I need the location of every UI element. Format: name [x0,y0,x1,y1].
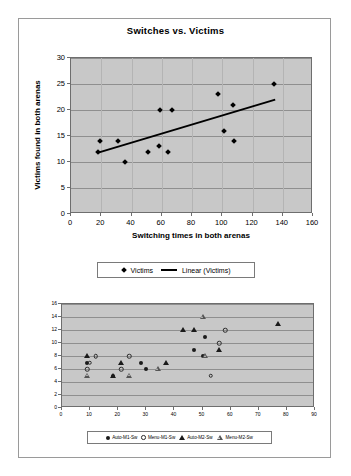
chart-switches-vs-victims: Switches vs. Victims Switching times in … [19,19,332,287]
legend-label: Auto-M1-Sw [112,435,137,440]
x-axis-tickmark [314,407,315,410]
y-axis-tickmark [67,187,70,188]
x-axis-tick-label: 40 [117,218,145,227]
y-axis-tick-label: 12 [48,326,57,332]
x-axis-tickmark [131,213,132,216]
legend-label: Victims [131,267,153,274]
legend-item-menu-m1: Menu-M1-Sw [141,435,175,440]
y-axis-tickmark [58,342,61,343]
gridline [62,304,313,305]
x-axis-tickmark [161,213,162,216]
x-axis-tick-label: 140 [268,218,296,227]
data-point [202,353,208,358]
y-axis-tick-label: 0 [48,404,57,410]
legend-item-auto-m1: Auto-M1-Sw [106,435,137,440]
x-axis-tick-label: 20 [103,411,131,417]
chart-switch-counts: Auto-M1-Sw Menu-M1-Sw Auto-M2-Sw Menu-M2… [19,291,332,457]
x-axis-tickmark [100,213,101,216]
trendline [71,58,313,214]
chart-legend: Victims Linear (Victims) [97,262,255,278]
data-point [118,360,124,365]
y-axis-tickmark [67,109,70,110]
x-axis-title: Switching times in both arenas [70,231,312,240]
x-axis-tickmark [61,407,62,410]
x-axis-tickmark [312,213,313,216]
x-axis-tick-label: 120 [238,218,266,227]
y-axis-title: Victims found in both arenas [33,57,42,213]
data-point [275,321,281,326]
x-axis-tickmark [221,213,222,216]
data-point [163,360,169,365]
data-point [84,353,90,358]
chart-title: Switches vs. Victims [19,25,332,36]
filled-triangle-marker-icon [179,435,185,440]
filled-circle-marker-icon [106,436,110,440]
x-axis-tickmark [117,407,118,410]
y-axis-tick-label: 16 [48,300,57,306]
x-axis-tick-label: 40 [159,411,187,417]
x-axis-tick-label: 160 [298,218,326,227]
open-triangle-marker-icon [217,435,223,440]
y-axis-tick-label: 0 [51,209,65,218]
legend-item-menu-m2: Menu-M2-Sw [217,435,253,440]
y-axis-tick-label: 14 [48,313,57,319]
x-axis-tickmark [70,213,71,216]
x-axis-tick-label: 70 [244,411,272,417]
gridline [62,317,313,318]
gridline [62,395,313,396]
x-axis-tick-label: 20 [86,218,114,227]
x-axis-tickmark [230,407,231,410]
y-axis-tick-label: 25 [51,79,65,88]
data-point [216,347,222,352]
data-point [203,335,207,339]
plot-area-top [70,57,312,213]
legend-item-auto-m2: Auto-M2-Sw [179,435,212,440]
data-point [155,366,161,371]
x-axis-tick-label: 0 [47,411,75,417]
figure-frame: Switches vs. Victims Switching times in … [18,18,331,458]
y-axis-tick-label: 15 [51,131,65,140]
x-axis-tick-label: 80 [272,411,300,417]
x-axis-tick-label: 10 [75,411,103,417]
x-axis-tick-label: 60 [216,411,244,417]
x-axis-tick-label: 60 [147,218,175,227]
y-axis-tickmark [67,161,70,162]
data-point [85,367,90,372]
x-axis-tick-label: 100 [207,218,235,227]
data-point [200,314,206,319]
data-point [87,360,92,365]
open-circle-marker-icon [141,435,146,440]
x-axis-tickmark [191,213,192,216]
data-point [127,354,132,359]
x-axis-tickmark [145,407,146,410]
x-axis-tickmark [89,407,90,410]
y-axis-tickmark [67,57,70,58]
data-point [93,354,98,359]
data-point [119,367,124,372]
legend-label: Menu-M2-Sw [226,435,253,440]
y-axis-tickmark [58,316,61,317]
gridline [62,382,313,383]
legend-item-victims: Victims [122,267,153,274]
data-point [209,373,214,378]
gridline [62,330,313,331]
y-axis-tickmark [58,394,61,395]
x-axis-tickmark [202,407,203,410]
line-swatch-icon [161,269,177,271]
diamond-marker-icon [121,267,127,273]
y-axis-tick-label: 10 [48,339,57,345]
x-axis-tickmark [252,213,253,216]
x-axis-tickmark [282,213,283,216]
data-point [126,373,132,378]
y-axis-tick-label: 10 [51,157,65,166]
data-point [191,327,197,332]
data-point [144,367,148,371]
y-axis-tickmark [67,135,70,136]
y-axis-tickmark [67,83,70,84]
x-axis-tick-label: 50 [188,411,216,417]
gridline [62,369,313,370]
x-axis-tickmark [258,407,259,410]
chart-legend-bottom: Auto-M1-Sw Menu-M1-Sw Auto-M2-Sw Menu-M2… [87,431,272,444]
x-axis-tick-label: 0 [56,218,84,227]
legend-item-linear: Linear (Victims) [161,267,231,274]
